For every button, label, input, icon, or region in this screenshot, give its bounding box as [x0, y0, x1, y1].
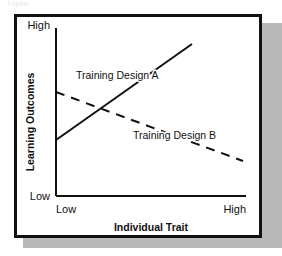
y-axis-low-label: Low: [30, 190, 50, 202]
series-label-training-design-b: Training Design B: [133, 129, 216, 141]
series-line-training-design-a: [56, 44, 192, 140]
chart-canvas: High Low Low High Learning Outcomes Indi…: [0, 0, 282, 256]
x-axis-title: Individual Trait: [114, 221, 189, 233]
y-axis-title: Learning Outcomes: [24, 73, 36, 172]
x-axis-low-label: Low: [56, 203, 76, 215]
figure-root: Figure High Low Low High Learning Outcom…: [0, 0, 282, 256]
y-axis-high-label: High: [27, 19, 50, 31]
series-line-training-design-b: [56, 92, 243, 161]
series-label-training-design-a: Training Design A: [76, 69, 159, 81]
x-axis-high-label: High: [223, 203, 246, 215]
